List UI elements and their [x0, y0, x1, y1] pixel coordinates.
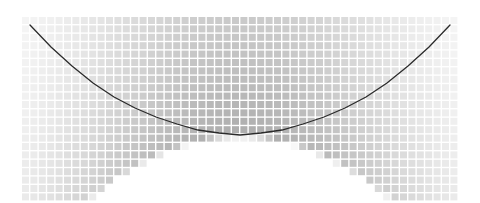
chart-figure: [0, 0, 480, 203]
heatmap-canvas: [0, 0, 480, 203]
